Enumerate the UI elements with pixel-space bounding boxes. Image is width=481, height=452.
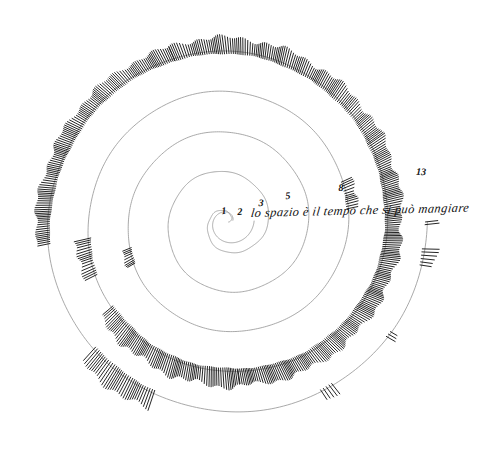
hatch-tick [332,81,343,97]
hatch-tick [132,64,140,75]
hatch-tick [100,363,112,381]
hatch-tick [209,367,210,387]
hatch-tick [143,389,150,407]
hatch-tick [82,268,95,274]
hatch-tick [285,49,289,67]
hatch-tick [385,227,398,228]
hatch-tick [390,332,397,336]
hatch-tick [359,117,372,128]
hatch-tick [287,51,291,68]
hatch-tick [362,122,374,132]
hatch-tick [250,42,251,55]
hatch-tick [371,283,384,287]
hatch-tick [141,342,148,355]
hatch-tick [135,339,144,355]
hatch-tick [100,84,112,95]
fibonacci-label-5: 5 [285,191,291,201]
hatch-tick [148,56,155,68]
hatch-tick [356,114,365,123]
fibonacci-label-8: 8 [338,183,343,193]
hatch-tick [425,221,437,222]
hatch-tick [128,381,137,400]
hatch-tick [283,47,287,66]
fibonacci-label-2: 2 [237,207,242,217]
fibonacci-label-13: 13 [416,167,426,177]
fibonacci-label-1: 1 [221,206,227,216]
hatch-tick [35,209,52,210]
hatch-tick [219,368,220,386]
hatch-tick [238,38,239,55]
hatch-tick [38,218,50,219]
hatch-tick [305,64,310,77]
hatch-tick [336,86,346,101]
hatch-tick [307,66,312,77]
hatch-tick [372,281,386,285]
hatch-tick [85,349,98,364]
hatch-tick [39,197,53,198]
hatch-tick [237,38,238,54]
hatch-tick [141,388,147,404]
hatch-tick [130,382,138,399]
hatch-tick [326,387,333,397]
hatch-tick [298,356,307,370]
hatch-tick [291,55,295,69]
hatch-tick [96,86,109,97]
hatch-tick [329,385,337,396]
hatching-marks-group [35,35,440,411]
spiral-artwork-canvas: 1235813 lo spazio è il tempo che si può … [0,0,481,452]
hatch-tick [38,220,49,221]
hatch-tick [375,151,389,159]
hatch-tick [343,96,352,107]
spiral-drawing [0,0,481,452]
hatch-tick [332,384,340,394]
hatch-tick [342,181,354,186]
hatch-tick [279,362,288,380]
hatch-tick [383,243,402,244]
spiral-inner-detail-path [213,212,255,243]
hatch-tick [373,279,388,283]
